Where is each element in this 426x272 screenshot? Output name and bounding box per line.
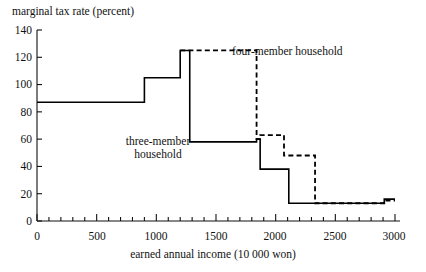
chart-figure: marginal tax rate (percent) earned annua…	[0, 0, 426, 272]
x-axis-ticks	[37, 214, 395, 221]
axis-lines	[37, 30, 400, 221]
series-path-2	[180, 50, 395, 203]
series-path-1	[37, 50, 395, 203]
series-layer	[37, 50, 395, 203]
chart-plot-area	[0, 0, 426, 272]
y-axis-ticks	[37, 30, 42, 221]
